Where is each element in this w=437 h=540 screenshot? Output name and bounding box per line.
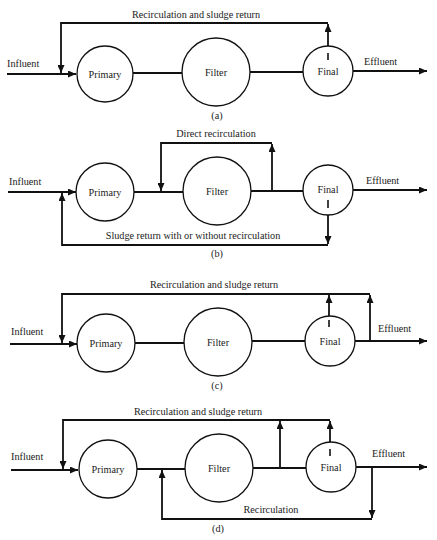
final-label: Final	[320, 336, 341, 347]
effluent-label: Effluent	[378, 323, 411, 334]
final-label: Final	[321, 462, 342, 473]
diagram-b: Direct recirculation Influent Effluent S…	[8, 128, 427, 260]
flow-diagram-figure: Recirculation and sludge return Influent…	[0, 0, 437, 540]
top-flow-label: Recirculation and sludge return	[150, 279, 278, 290]
top-flow-label: Recirculation and sludge return	[132, 9, 260, 20]
primary-label: Primary	[89, 187, 123, 198]
diagram-caption: (a)	[211, 110, 222, 122]
primary-label: Primary	[92, 464, 126, 475]
bottom-flow-label: Recirculation	[244, 504, 299, 515]
filter-label: Filter	[208, 463, 231, 474]
filter-label: Filter	[206, 186, 229, 197]
effluent-label: Effluent	[372, 448, 405, 459]
diagram-d: Recirculation and sludge return Influent…	[11, 406, 427, 535]
effluent-label: Effluent	[366, 175, 399, 186]
top-flow-label: Direct recirculation	[176, 128, 255, 139]
influent-label: Influent	[11, 326, 43, 337]
diagram-c: Recirculation and sludge return Influent…	[10, 279, 427, 392]
diagram-caption: (c)	[211, 380, 222, 392]
diagram-caption: (b)	[211, 248, 223, 260]
final-label: Final	[318, 66, 339, 77]
top-flow-label: Recirculation and sludge return	[134, 406, 262, 417]
influent-label: Influent	[9, 176, 41, 187]
filter-label: Filter	[207, 337, 230, 348]
final-label: Final	[318, 184, 339, 195]
primary-label: Primary	[89, 69, 123, 80]
influent-label: Influent	[7, 58, 39, 69]
influent-label: Influent	[11, 451, 43, 462]
bottom-flow-label: Sludge return with or without recirculat…	[106, 230, 281, 241]
effluent-label: Effluent	[364, 56, 397, 67]
primary-label: Primary	[90, 338, 124, 349]
filter-label: Filter	[205, 67, 228, 78]
diagram-a: Recirculation and sludge return Influent…	[7, 9, 427, 122]
diagram-caption: (d)	[212, 523, 224, 535]
